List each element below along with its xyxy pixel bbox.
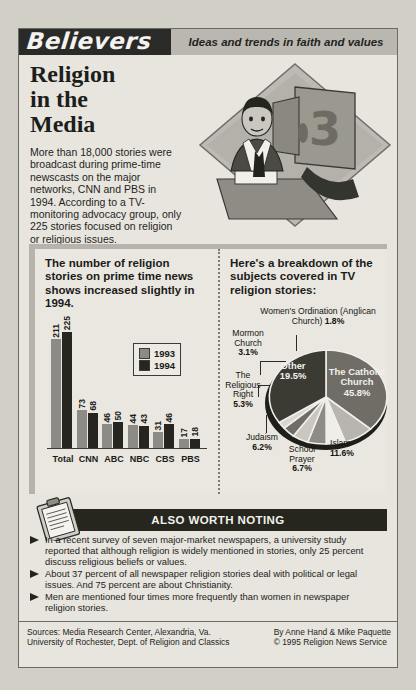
legend-label-1994: 1994 <box>154 360 175 371</box>
monitor-number: 3 <box>309 102 341 156</box>
bar-pbs-1993 <box>179 439 189 448</box>
footer-divider <box>19 621 397 622</box>
triangle-bullet-icon <box>30 536 39 544</box>
pie-label-judaism-value: 6.2% <box>252 442 272 452</box>
pie-chart: Women's Ordination (Anglican Church) 1.8… <box>220 307 387 499</box>
banner-logo-text: Believers <box>26 28 173 55</box>
pie-chart-heading: Here's a breakdown of the subjects cover… <box>230 257 398 297</box>
note-text: Men are mentioned four times more freque… <box>45 591 349 613</box>
pie-label-womens-ordination-name: Women's Ordination (Anglican Church) <box>260 306 376 326</box>
pie-chart-section: Here's a breakdown of the subjects cover… <box>218 249 387 494</box>
pie-label-islam-value: 11.6% <box>330 448 354 458</box>
bar-category-label: PBS <box>176 454 206 464</box>
note-item: Men are mentioned four times more freque… <box>29 591 377 613</box>
pie-label-religious-right-value: 5.3% <box>233 399 253 409</box>
also-worth-noting-title: ALSO WORTH NOTING <box>49 509 387 531</box>
bar-value-label: 43 <box>139 414 149 423</box>
bar-cbs-1993 <box>153 432 163 448</box>
bar-value-label: 31 <box>153 421 163 430</box>
banner-tagline: Ideas and trends in faith and values <box>179 29 393 55</box>
pie-label-catholic: The Catholic Church 45.8% <box>326 367 388 398</box>
pie-label-catholic-value: 45.8% <box>344 387 371 398</box>
bar-value-label: 68 <box>88 401 98 410</box>
pie-label-catholic-name: The Catholic Church <box>329 366 385 387</box>
legend-item-1994: 1994 <box>139 360 175 371</box>
pie-label-school-prayer: School Prayer 6.7% <box>278 445 326 474</box>
bar-value-label: 46 <box>102 413 112 422</box>
pie-label-religious-right-name: The Religious Right <box>225 370 260 399</box>
bar-cnn-1994 <box>88 413 98 448</box>
footer: Sources: Media Research Center, Alexandr… <box>27 627 391 647</box>
bar-abc-1994 <box>113 422 123 448</box>
page-title: Religion in the Media <box>30 62 180 137</box>
bar-nbc-1993 <box>128 425 138 448</box>
bar-value-label: 46 <box>164 413 174 422</box>
pie-label-other: Other 19.5% <box>270 361 316 382</box>
bar-value-label: 73 <box>77 399 87 408</box>
pie-label-school-prayer-value: 6.7% <box>292 463 312 473</box>
triangle-bullet-icon <box>30 593 39 601</box>
intro-paragraph: More than 18,000 stories were broadcast … <box>30 146 182 245</box>
bar-value-label: 225 <box>62 316 72 330</box>
bar-value-label: 44 <box>128 414 138 423</box>
bar-value-label: 18 <box>190 427 200 436</box>
pie-label-religious-right: The Religious Right 5.3% <box>220 371 266 409</box>
bar-nbc-1994 <box>139 426 149 448</box>
legend-label-1993: 1993 <box>154 348 175 359</box>
infographic-frame: Believers Ideas and trends in faith and … <box>18 28 398 668</box>
pie-label-judaism-name: Judaism <box>246 432 278 442</box>
note-text: In a recent survey of seven major-market… <box>45 534 363 567</box>
bar-pbs-1994 <box>190 439 200 448</box>
legend-item-1993: 1993 <box>139 348 175 359</box>
triangle-bullet-icon <box>30 570 39 578</box>
bar-chart-section: The number of religion stories on prime … <box>35 249 215 494</box>
bar-chart-legend: 1993 1994 <box>133 343 181 376</box>
note-item: About 37 percent of all newspaper religi… <box>29 568 377 590</box>
bar-chart: 1993 1994 211225Total7368CNN4650ABC4443N… <box>47 321 207 467</box>
bar-cbs-1994 <box>164 424 174 448</box>
bar-cnn-1993 <box>77 410 87 448</box>
bar-value-label: 50 <box>113 411 123 420</box>
pie-label-mormon: Mormon Church 3.1% <box>222 329 274 358</box>
bar-value-label: 17 <box>179 428 189 437</box>
infographic-page: Believers Ideas and trends in faith and … <box>0 0 416 690</box>
note-item: In a recent survey of seven major-market… <box>29 534 377 567</box>
pie-label-mormon-value: 3.1% <box>238 347 258 357</box>
bar-abc-1993 <box>102 424 112 448</box>
bar-chart-baseline <box>47 448 207 449</box>
charts-panel: The number of religion stories on prime … <box>29 244 387 494</box>
pie-label-womens-ordination: Women's Ordination (Anglican Church) 1.8… <box>256 307 380 326</box>
bar-total-1994 <box>62 332 72 448</box>
pie-label-womens-ordination-value: 1.8% <box>325 316 345 326</box>
pie-label-other-name: Other <box>280 360 305 371</box>
footer-credits: By Anne Hand & Mike Paquette © 1995 Reli… <box>274 627 391 647</box>
pie-label-islam: Islam 11.6% <box>330 439 378 458</box>
bar-value-label: 211 <box>51 324 61 338</box>
pie-label-school-prayer-name: School Prayer <box>289 444 315 464</box>
bar-total-1993 <box>51 339 61 448</box>
note-text: About 37 percent of all newspaper religi… <box>45 568 357 590</box>
also-worth-noting-list: In a recent survey of seven major-market… <box>29 534 377 614</box>
pie-label-mormon-name: Mormon Church <box>232 328 264 348</box>
bar-chart-heading: The number of religion stories on prime … <box>45 257 205 311</box>
anchor-illustration: 3 <box>187 59 397 231</box>
footer-sources: Sources: Media Research Center, Alexandr… <box>27 627 229 647</box>
legend-swatch-1993 <box>139 348 150 359</box>
also-worth-noting-bar: ALSO WORTH NOTING <box>49 509 387 531</box>
pie-label-other-value: 19.5% <box>280 370 307 381</box>
legend-swatch-1994 <box>139 360 150 371</box>
pie-label-islam-name: Islam <box>330 438 351 448</box>
banner: Believers Ideas and trends in faith and … <box>19 29 397 55</box>
